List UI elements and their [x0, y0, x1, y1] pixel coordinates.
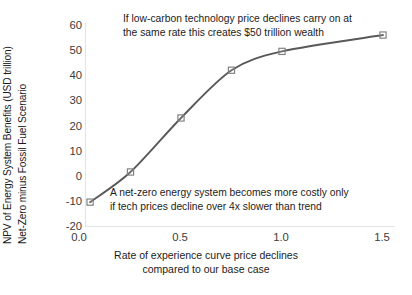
x-axis-title: Rate of experience curve price declines … [0, 249, 412, 276]
top-annotation-line-1: If low-carbon technology price declines … [123, 12, 352, 26]
data-point-marker [178, 115, 184, 121]
chart-container: NPV of Energy System Benefits (USD trill… [0, 0, 412, 295]
bottom-annotation-line-2: if tech prices decline over 4x slower th… [110, 200, 349, 214]
top-annotation: If low-carbon technology price declines … [123, 12, 352, 39]
x-axis-title-line-1: Rate of experience curve price declines [0, 249, 412, 263]
data-point-marker [228, 67, 234, 73]
y-axis-title-line-1: NPV of Energy System Benefits (USD trill… [2, 46, 13, 244]
data-point-marker [279, 48, 285, 54]
y-axis-title-line-2: Net-Zero minus Fossil Fuel Scenario [17, 84, 28, 244]
y-axis-title: NPV of Energy System Benefits (USD trill… [0, 0, 46, 248]
x-tick-label: 1.0 [273, 231, 289, 243]
top-annotation-line-2: the same rate this creates $50 trillion … [123, 26, 352, 40]
x-tick-label: 0.5 [172, 231, 188, 243]
series-line [90, 35, 383, 202]
bottom-annotation-line-1: A net-zero energy system becomes more co… [110, 186, 349, 200]
data-point-marker [380, 32, 386, 38]
data-point-marker [87, 199, 93, 205]
bottom-annotation: A net-zero energy system becomes more co… [110, 186, 349, 213]
x-axis-title-line-2: compared to our base case [0, 263, 412, 277]
x-tick-label: 0.0 [71, 231, 87, 243]
x-tick-label: 1.5 [374, 231, 390, 243]
data-point-marker [127, 169, 133, 175]
